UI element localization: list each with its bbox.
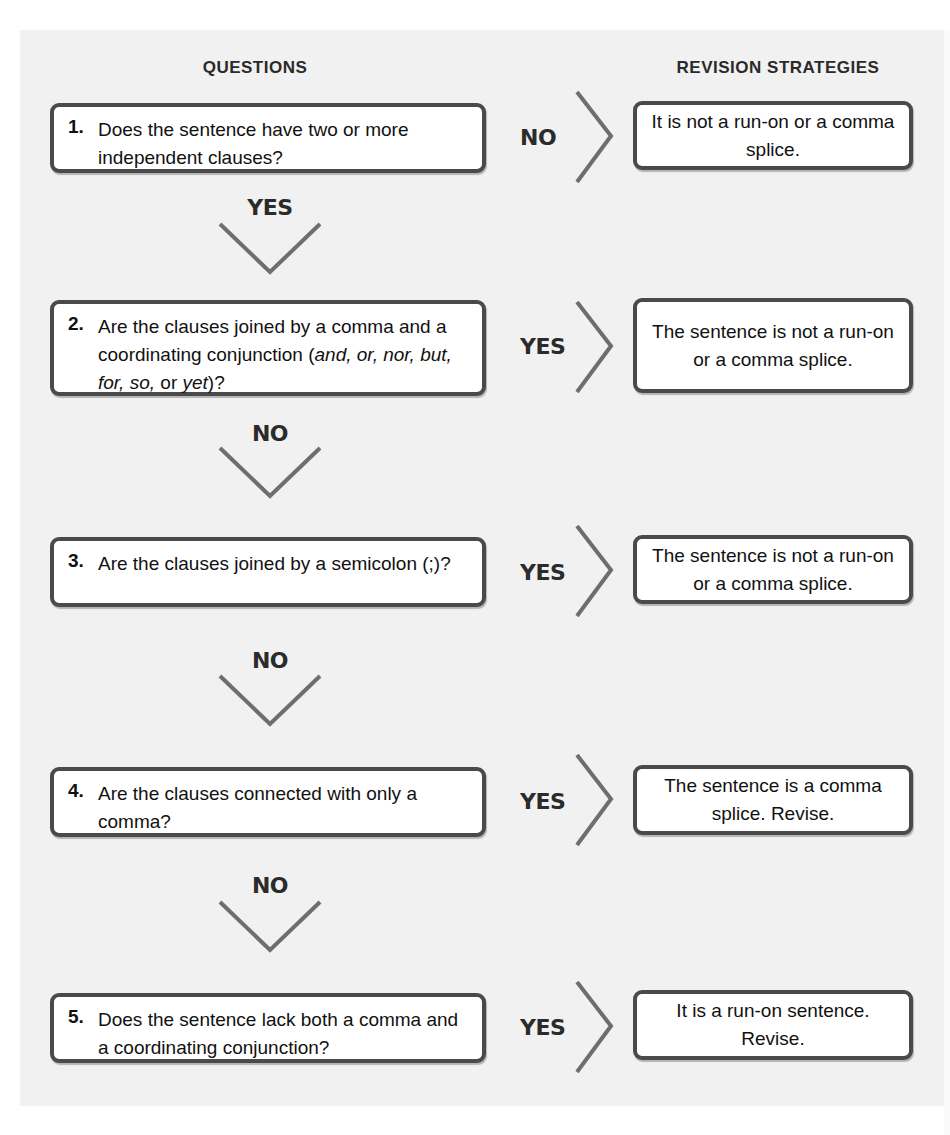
answer-text: The sentence is not a run-on or a comma … xyxy=(643,318,903,374)
answer-text: The sentence is a comma splice. Revise. xyxy=(643,772,903,828)
question-box-4: 4. Are the clauses connected with only a… xyxy=(50,767,486,837)
branch-label-no: NO xyxy=(520,125,556,150)
question-number: 2. xyxy=(68,313,84,335)
answer-text: It is a run-on sentence. Revise. xyxy=(643,997,903,1053)
down-chevron-arrow-icon xyxy=(218,446,322,500)
cropped-heading xyxy=(0,0,950,8)
right-chevron-arrow-icon xyxy=(575,980,615,1076)
right-chevron-arrow-icon xyxy=(575,90,615,186)
answer-box-3: The sentence is not a run-on or a comma … xyxy=(633,535,913,604)
down-chevron-arrow-icon xyxy=(218,674,322,728)
question-box-5: 5. Does the sentence lack both a comma a… xyxy=(50,993,486,1063)
branch-label-yes: YES xyxy=(210,195,330,220)
answer-box-5: It is a run-on sentence. Revise. xyxy=(633,990,913,1060)
branch-label-yes: YES xyxy=(520,789,565,814)
right-chevron-arrow-icon xyxy=(575,524,615,620)
answer-box-1: It is not a run-on or a comma splice. xyxy=(633,101,913,170)
right-chevron-arrow-icon xyxy=(575,300,615,396)
question-number: 5. xyxy=(68,1006,84,1028)
question-text: Does the sentence have two or more indep… xyxy=(98,115,470,172)
question-box-2: 2. Are the clauses joined by a comma and… xyxy=(50,300,486,396)
branch-label-no: NO xyxy=(210,648,330,673)
question-text-part: )? xyxy=(208,372,225,393)
question-text: Are the clauses joined by a comma and a … xyxy=(98,312,470,397)
branch-label-yes: YES xyxy=(520,560,565,585)
down-chevron-arrow-icon xyxy=(218,222,322,276)
question-number: 4. xyxy=(68,780,84,802)
question-box-1: 1. Does the sentence have two or more in… xyxy=(50,103,486,173)
down-chevron-arrow-icon xyxy=(218,900,322,954)
question-text: Does the sentence lack both a comma and … xyxy=(98,1005,470,1062)
branch-label-yes: YES xyxy=(520,1015,565,1040)
answer-text: It is not a run-on or a comma splice. xyxy=(643,108,903,164)
branch-label-no: NO xyxy=(210,873,330,898)
answer-text: The sentence is not a run-on or a comma … xyxy=(643,542,903,598)
question-text: Are the clauses joined by a semicolon (;… xyxy=(98,549,470,578)
branch-label-no: NO xyxy=(210,421,330,446)
right-chevron-arrow-icon xyxy=(575,753,615,849)
question-text: Are the clauses connected with only a co… xyxy=(98,779,470,836)
conjunction-yet: yet xyxy=(182,372,207,393)
page-margin-strip xyxy=(944,30,950,1135)
question-number: 1. xyxy=(68,116,84,138)
question-number: 3. xyxy=(68,550,84,572)
branch-label-yes: YES xyxy=(520,334,565,359)
revision-strategies-column-header: REVISION STRATEGIES xyxy=(643,58,913,78)
question-box-3: 3. Are the clauses joined by a semicolon… xyxy=(50,537,486,607)
answer-box-4: The sentence is a comma splice. Revise. xyxy=(633,765,913,835)
questions-column-header: QUESTIONS xyxy=(155,58,355,78)
answer-box-2: The sentence is not a run-on or a comma … xyxy=(633,298,913,393)
question-text-part: or xyxy=(155,372,182,393)
